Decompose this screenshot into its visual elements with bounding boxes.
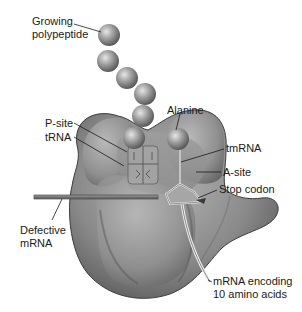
label-defective-line2: mRNA bbox=[20, 237, 66, 250]
label-trna: tRNA bbox=[45, 131, 71, 144]
label-growing-line2: polypeptide bbox=[32, 28, 88, 41]
label-p-site: P-site bbox=[45, 117, 73, 130]
label-growing-line1: Growing bbox=[32, 15, 88, 28]
label-defective-mrna: Defective mRNA bbox=[20, 224, 66, 250]
label-mrna-encoding: mRNA encoding 10 amino acids bbox=[213, 275, 293, 301]
label-stop-codon: Stop codon bbox=[219, 183, 275, 196]
ribosome-illustration bbox=[0, 0, 302, 312]
label-growing-polypeptide: Growing polypeptide bbox=[32, 15, 88, 41]
label-defective-line1: Defective bbox=[20, 224, 66, 237]
label-mrna-encoding-line2: 10 amino acids bbox=[213, 288, 293, 301]
p-site-trna bbox=[128, 146, 158, 184]
defective-mrna-strand bbox=[34, 195, 158, 199]
label-tmrna: tmRNA bbox=[226, 142, 261, 155]
label-a-site: A-site bbox=[223, 166, 251, 179]
label-mrna-encoding-line1: mRNA encoding bbox=[213, 275, 293, 288]
alanine-bead bbox=[167, 128, 189, 150]
label-alanine: Alanine bbox=[167, 104, 204, 117]
ribosome-diagram: Growing polypeptide P-site tRNA Alanine … bbox=[0, 0, 302, 312]
